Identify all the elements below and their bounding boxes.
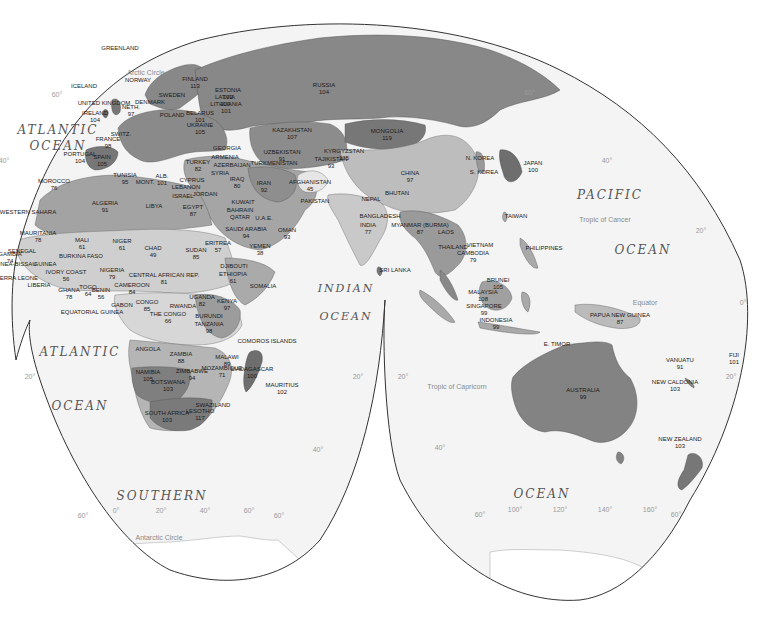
graticule-label: 120°	[553, 506, 567, 513]
graticule-label: 60°	[52, 91, 63, 98]
graticule-label: 20°	[156, 507, 167, 514]
antarctica-edge-west	[80, 536, 300, 600]
reference-line-label-tropic-cancer: Tropic of Cancer	[579, 216, 630, 223]
graticule-label: 60°	[525, 89, 536, 96]
graticule-label: 20°	[353, 373, 364, 380]
graticule-label: 40°	[313, 446, 324, 453]
graticule-label: 60°	[78, 512, 89, 519]
ocean-label-atlantic-north-2: OCEAN	[30, 139, 87, 153]
ocean-label-pacific-2: OCEAN	[615, 243, 672, 257]
graticule-label: 100°	[508, 506, 522, 513]
graticule-label: 20°	[726, 373, 737, 380]
graticule-label: 40°	[200, 507, 211, 514]
ocean-label-indian-2: OCEAN	[319, 310, 372, 323]
ocean-label-indian-1: INDIAN	[318, 282, 375, 295]
graticule-label: 40°	[0, 157, 9, 164]
graticule-label: 0°	[113, 507, 120, 514]
world-map	[0, 0, 779, 621]
landmass-iceland	[92, 78, 104, 85]
graticule-label: 20°	[25, 373, 36, 380]
ocean-label-atlantic-north-1: ATLANTIC	[17, 123, 98, 137]
ocean-label-southern-2: OCEAN	[514, 487, 571, 501]
graticule-label: 140°	[598, 506, 612, 513]
graticule-label: 20°	[398, 373, 409, 380]
graticule-label: 60°	[475, 511, 486, 518]
graticule-label: 40°	[602, 157, 613, 164]
graticule-label: 0°	[740, 299, 747, 306]
reference-line-label-equator: Equator	[633, 299, 658, 306]
reference-line-label-antarctic-circle: Antarctic Circle	[135, 534, 182, 541]
ocean-label-pacific-1: PACIFIC	[577, 188, 643, 202]
graticule-label: 20°	[696, 227, 707, 234]
landmass-sahel	[18, 229, 240, 293]
graticule-label: 60°	[671, 511, 682, 518]
reference-line-label-tropic-capricorn: Tropic of Capricorn	[427, 383, 486, 390]
graticule-label: 60°	[244, 507, 255, 514]
ocean-label-atlantic-south-2: OCEAN	[52, 399, 109, 413]
graticule-label: 160°	[643, 506, 657, 513]
reference-line-label-arctic-circle: Arctic Circle	[127, 69, 164, 76]
ocean-label-atlantic-south-1: ATLANTIC	[39, 345, 120, 359]
ocean-label-southern-1: SOUTHERN	[117, 489, 208, 503]
graticule-label: 60°	[274, 512, 285, 519]
landmass-central-asia	[250, 122, 347, 169]
graticule-label: 40°	[435, 444, 446, 451]
antarctica-edge-east	[490, 550, 643, 611]
